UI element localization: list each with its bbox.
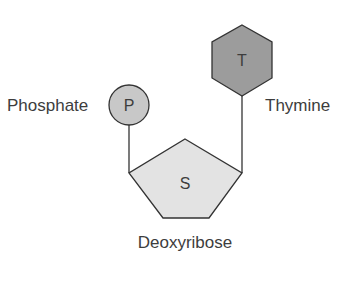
deoxyribose-label: Deoxyribose: [138, 233, 233, 252]
phosphate-label: Phosphate: [7, 96, 88, 115]
sugar-symbol: S: [180, 175, 191, 192]
thymine-label: Thymine: [265, 96, 330, 115]
thymine-base: T: [212, 25, 272, 96]
nucleotide-diagram: S P T Phosphate Thymine Deoxyribose: [0, 0, 341, 289]
deoxyribose-sugar: S: [129, 139, 242, 218]
phosphate-symbol: P: [124, 97, 135, 114]
base-symbol: T: [237, 52, 247, 69]
phosphate-group: P: [109, 85, 149, 125]
